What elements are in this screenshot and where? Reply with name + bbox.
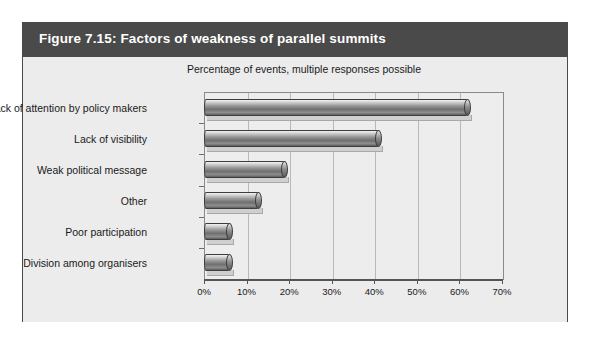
x-axis-tick bbox=[459, 279, 460, 284]
bar-shadow bbox=[207, 270, 234, 276]
gridline bbox=[333, 93, 334, 280]
category-label: Other bbox=[121, 195, 147, 207]
bar-end-cap bbox=[281, 161, 288, 178]
y-axis-tick bbox=[199, 154, 204, 155]
category-label: Division among organisers bbox=[23, 257, 147, 269]
category-label: Lack of visibility bbox=[74, 133, 147, 145]
category-label: Lack of attention by policy makers bbox=[0, 102, 147, 114]
gridline bbox=[290, 93, 291, 280]
gridline bbox=[418, 93, 419, 280]
chart-subtitle: Percentage of events, multiple responses… bbox=[23, 63, 567, 75]
x-axis-tick-label: 50% bbox=[407, 286, 426, 297]
gridline bbox=[248, 93, 249, 280]
bar-end-cap bbox=[375, 130, 382, 147]
y-axis-tick bbox=[199, 186, 204, 187]
x-axis-tick-label: 60% bbox=[450, 286, 469, 297]
x-axis-tick-label: 40% bbox=[365, 286, 384, 297]
chart-body: Percentage of events, multiple responses… bbox=[23, 57, 567, 322]
bar bbox=[204, 99, 468, 116]
x-axis-tick-label: 20% bbox=[280, 286, 299, 297]
x-axis-tick-label: 10% bbox=[237, 286, 256, 297]
y-axis-tick bbox=[199, 123, 204, 124]
figure-container: Figure 7.15: Factors of weakness of para… bbox=[22, 22, 568, 322]
category-label: Weak political message bbox=[37, 164, 147, 176]
figure-title: Figure 7.15: Factors of weakness of para… bbox=[39, 31, 386, 46]
x-axis-tick bbox=[289, 279, 290, 284]
x-axis-tick-label: 70% bbox=[492, 286, 511, 297]
figure-title-band: Figure 7.15: Factors of weakness of para… bbox=[23, 23, 567, 57]
bar bbox=[204, 192, 259, 209]
bar-shadow bbox=[207, 239, 234, 245]
bar-end-cap bbox=[464, 99, 471, 116]
category-label: Poor participation bbox=[65, 226, 147, 238]
gridline bbox=[375, 93, 376, 280]
x-axis-tick bbox=[204, 279, 205, 284]
y-axis-tick bbox=[199, 248, 204, 249]
x-axis-tick bbox=[247, 279, 248, 284]
bar-end-cap bbox=[226, 254, 233, 271]
gridline bbox=[460, 93, 461, 280]
x-axis-tick bbox=[417, 279, 418, 284]
x-axis-tick bbox=[502, 279, 503, 284]
x-axis-tick bbox=[332, 279, 333, 284]
x-axis-tick-label: 0% bbox=[197, 286, 211, 297]
bar bbox=[204, 254, 230, 271]
x-axis-tick bbox=[374, 279, 375, 284]
bar bbox=[204, 161, 285, 178]
bar bbox=[204, 130, 379, 147]
x-axis-tick-label: 30% bbox=[322, 286, 341, 297]
x-axis-line bbox=[204, 279, 503, 281]
bar-end-cap bbox=[226, 223, 233, 240]
y-axis-tick bbox=[199, 217, 204, 218]
bar bbox=[204, 223, 230, 240]
